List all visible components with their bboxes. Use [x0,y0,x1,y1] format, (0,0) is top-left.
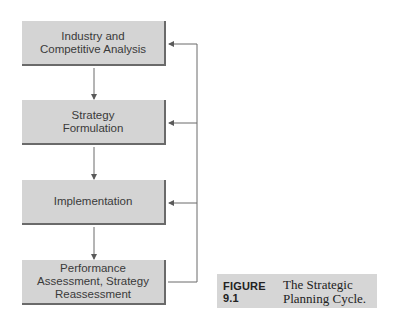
box-label: Strategy Formulation [63,109,124,135]
figure-caption: FIGURE 9.1 The Strategic Planning Cycle. [217,274,377,308]
box-implementation: Implementation [22,180,166,225]
box-label: Implementation [54,195,133,208]
feedback-line [168,44,197,282]
box-label: Performance Assessment, Strategy Reasses… [37,262,149,301]
box-performance-assessment: Performance Assessment, Strategy Reasses… [22,260,166,305]
figure-title: The Strategic Planning Cycle. [283,278,366,308]
box-strategy-formulation: Strategy Formulation [22,100,166,145]
box-industry-analysis: Industry and Competitive Analysis [22,21,166,66]
box-label: Industry and Competitive Analysis [40,30,146,56]
figure-label: FIGURE 9.1 [223,278,283,308]
